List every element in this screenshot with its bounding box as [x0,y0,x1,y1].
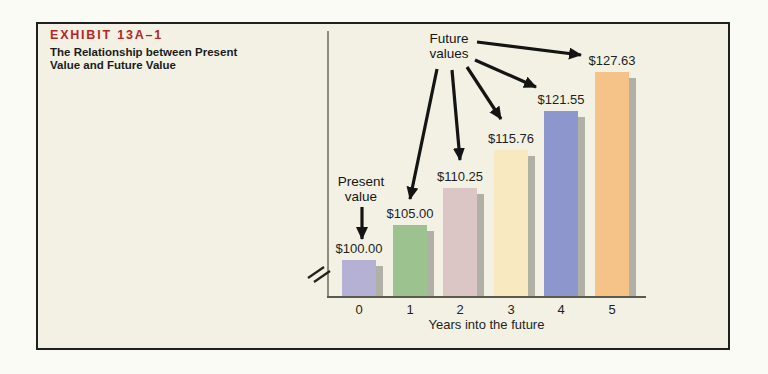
bar-value-label: $110.25 [420,169,500,184]
x-tick-label: 5 [592,302,632,317]
x-axis-title: Years into the future [327,317,646,332]
bar-chart: $100.000$105.001$110.252$115.763$121.554… [0,0,768,374]
arrow-future-to-bar2 [452,70,460,160]
x-tick-label: 1 [390,302,430,317]
page: EXHIBIT 13A–1 The Relationship between P… [0,0,768,374]
present-value-annotation-line2: value [321,189,401,204]
bar [342,260,376,296]
bar-value-label: $115.76 [471,131,551,146]
x-axis [327,296,646,298]
arrow-future-to-bar4 [475,60,536,87]
bar [595,72,629,296]
bar-value-label: $121.55 [521,92,601,107]
x-tick-label: 4 [541,302,581,317]
future-values-annotation: Future values [409,31,489,61]
future-values-annotation-line2: values [409,46,489,61]
x-tick-label: 0 [339,302,379,317]
bar-value-label: $127.63 [572,53,652,68]
y-axis [327,31,329,297]
future-values-annotation-line1: Future [409,31,489,46]
x-tick-label: 2 [440,302,480,317]
x-tick-label: 3 [491,302,531,317]
arrow-future-to-bar5 [477,42,581,55]
arrow-future-to-bar3 [467,67,501,119]
present-value-annotation: Present value [321,174,401,204]
bar [544,111,578,296]
bar [443,188,477,296]
bar-value-label: $100.00 [319,241,399,256]
bar [393,225,427,296]
bar [494,150,528,296]
present-value-annotation-line1: Present [321,174,401,189]
bar-value-label: $105.00 [370,206,450,221]
